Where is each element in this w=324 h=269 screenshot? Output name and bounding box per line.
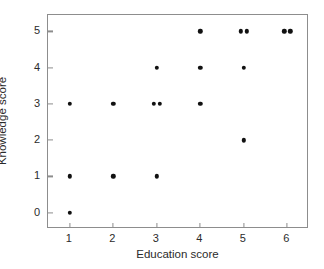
y-tick-mark xyxy=(48,176,53,177)
y-tick-label: 5 xyxy=(34,24,40,37)
x-tick-mark xyxy=(69,223,70,228)
plot-data-area xyxy=(48,15,307,227)
x-tick-mark xyxy=(243,223,244,228)
data-point xyxy=(155,65,159,69)
data-point xyxy=(198,102,202,106)
data-point xyxy=(242,138,246,142)
data-point xyxy=(111,102,115,106)
x-tick-label: 4 xyxy=(196,232,202,245)
data-point xyxy=(242,65,246,69)
data-point xyxy=(68,102,72,106)
x-tick-label: 3 xyxy=(153,232,159,245)
x-tick-mark xyxy=(287,223,288,228)
data-point xyxy=(111,174,115,178)
data-point xyxy=(158,102,162,106)
plot-frame xyxy=(47,14,308,228)
x-tick-mark xyxy=(156,223,157,228)
x-tick-mark xyxy=(113,223,114,228)
y-tick-label: 3 xyxy=(34,96,40,109)
y-tick-label: 0 xyxy=(34,205,40,218)
x-tick-label: 2 xyxy=(109,232,115,245)
y-tick-label: 4 xyxy=(34,60,40,73)
x-tick-label: 1 xyxy=(66,232,72,245)
y-axis-title: Knowledge score xyxy=(0,77,8,165)
data-point xyxy=(282,29,286,33)
y-tick-mark xyxy=(48,103,53,104)
data-point xyxy=(152,102,156,106)
y-tick-mark xyxy=(48,212,53,213)
data-point xyxy=(198,65,202,69)
y-axis-title-text: Knowledge score xyxy=(0,77,8,165)
data-point xyxy=(68,210,72,214)
x-axis-title: Education score xyxy=(47,248,308,260)
data-point xyxy=(155,174,159,178)
x-tick-label: 6 xyxy=(283,232,289,245)
data-point xyxy=(198,29,202,33)
x-tick-mark xyxy=(200,223,201,228)
data-point xyxy=(288,29,292,33)
data-point xyxy=(245,29,249,33)
y-tick-label: 1 xyxy=(34,169,40,182)
y-tick-mark xyxy=(48,31,53,32)
y-tick-label: 2 xyxy=(34,133,40,146)
scatter-plot-figure: 123456 012345 Education score Knowledge … xyxy=(0,0,324,269)
data-point xyxy=(68,174,72,178)
x-tick-label: 5 xyxy=(240,232,246,245)
y-tick-mark xyxy=(48,67,53,68)
data-point xyxy=(239,29,243,33)
y-tick-mark xyxy=(48,140,53,141)
